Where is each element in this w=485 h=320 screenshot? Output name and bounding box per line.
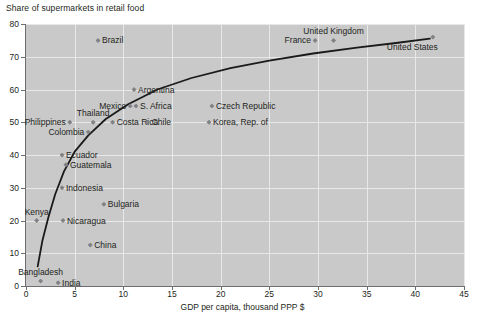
data-point-label: Argentina bbox=[138, 85, 174, 94]
chart-title: Share of supermarkets in retail food bbox=[6, 3, 144, 13]
x-tick-label: 30 bbox=[308, 290, 328, 299]
data-point-label: Ecuador bbox=[66, 151, 98, 160]
x-tick-label: 45 bbox=[454, 290, 474, 299]
y-tick-label: 60 bbox=[0, 86, 19, 95]
gridline-horizontal bbox=[26, 24, 464, 25]
y-tick-label: 50 bbox=[0, 118, 19, 127]
x-axis-line bbox=[25, 286, 465, 287]
gridline-horizontal bbox=[26, 90, 464, 91]
data-point-label: Bulgaria bbox=[108, 200, 139, 209]
data-point-label: Chile bbox=[152, 118, 171, 127]
x-tick-label: 20 bbox=[211, 290, 231, 299]
y-tick-mark bbox=[21, 24, 25, 25]
x-axis-label: GDP per capita, thousand PPP $ bbox=[181, 302, 305, 312]
data-point-label: Indonesia bbox=[66, 183, 103, 192]
data-point-label: Nicaragua bbox=[67, 216, 106, 225]
x-tick-label: 35 bbox=[357, 290, 377, 299]
data-point-label: Bangladesh bbox=[18, 268, 63, 277]
data-point-label: Thailand bbox=[77, 109, 110, 118]
y-tick-label: 20 bbox=[0, 217, 19, 226]
data-point-label: United Kingdom bbox=[303, 27, 363, 36]
y-tick-mark bbox=[21, 188, 25, 189]
x-tick-label: 10 bbox=[113, 290, 133, 299]
data-point-label: United States bbox=[387, 43, 438, 52]
y-tick-label: 40 bbox=[0, 151, 19, 160]
y-tick-mark bbox=[21, 90, 25, 91]
data-point-label: Korea, Rep. of bbox=[213, 118, 268, 127]
y-axis-line bbox=[25, 24, 26, 286]
gridline-horizontal bbox=[26, 57, 464, 58]
y-tick-mark bbox=[21, 221, 25, 222]
y-tick-label: 30 bbox=[0, 184, 19, 193]
gridline-vertical bbox=[464, 24, 465, 286]
data-point-label: S. Africa bbox=[140, 101, 172, 110]
data-point-label: Colombia bbox=[48, 128, 84, 137]
y-tick-mark bbox=[21, 286, 25, 287]
x-tick-label: 15 bbox=[162, 290, 182, 299]
data-point-label: Philippines bbox=[25, 118, 66, 127]
y-tick-label: 70 bbox=[0, 53, 19, 62]
x-tick-label: 40 bbox=[405, 290, 425, 299]
y-tick-label: 10 bbox=[0, 249, 19, 258]
y-tick-mark bbox=[21, 253, 25, 254]
x-tick-label: 5 bbox=[65, 290, 85, 299]
data-point-label: Czech Republic bbox=[216, 101, 276, 110]
data-point-label: Kenya bbox=[25, 208, 49, 217]
data-point-label: China bbox=[94, 241, 116, 250]
chart-figure: Share of supermarkets in retail food 010… bbox=[0, 0, 485, 320]
y-tick-mark bbox=[21, 57, 25, 58]
x-tick-label: 25 bbox=[259, 290, 279, 299]
data-point-label: India bbox=[62, 278, 80, 287]
gridline-horizontal bbox=[26, 253, 464, 254]
data-point-label: Brazil bbox=[102, 36, 123, 45]
x-tick-label: 0 bbox=[16, 290, 36, 299]
data-point-label: France bbox=[285, 36, 311, 45]
data-point-label: Guatemala bbox=[70, 160, 112, 169]
y-tick-label: 80 bbox=[0, 20, 19, 29]
y-tick-mark bbox=[21, 155, 25, 156]
